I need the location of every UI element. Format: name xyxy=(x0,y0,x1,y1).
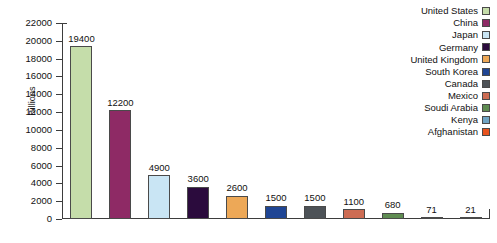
legend-color-swatch xyxy=(482,116,490,124)
bar[interactable] xyxy=(109,110,131,219)
legend-item-label: South Korea xyxy=(425,67,478,77)
legend-item-label: Germany xyxy=(439,43,478,53)
y-axis-tick xyxy=(56,219,62,220)
legend-item[interactable]: China xyxy=(366,17,490,29)
legend-item-label: China xyxy=(453,18,478,28)
bar[interactable] xyxy=(226,196,248,219)
legend-color-swatch xyxy=(482,128,490,136)
legend-item-label: Afghanistan xyxy=(428,127,478,137)
bar-value-label: 680 xyxy=(385,200,401,210)
legend-color-swatch xyxy=(482,104,490,112)
legend-color-swatch xyxy=(482,68,490,76)
bar-group[interactable]: 3600 xyxy=(187,23,209,219)
bar-value-label: 3600 xyxy=(188,174,209,184)
y-axis-tick-label: 2000 xyxy=(0,196,52,206)
legend-item[interactable]: Japan xyxy=(366,29,490,41)
legend-color-swatch xyxy=(482,55,490,63)
chart-legend: United StatesChinaJapanGermanyUnited Kin… xyxy=(366,5,490,138)
y-axis-tick-label: 16000 xyxy=(0,72,52,82)
legend-item[interactable]: Germany xyxy=(366,41,490,53)
y-axis-tick-label: 20000 xyxy=(0,36,52,46)
legend-color-swatch xyxy=(482,80,490,88)
legend-item-label: United States xyxy=(421,6,478,16)
bar-group[interactable]: 19400 xyxy=(70,23,92,219)
y-axis-tick-label: 4000 xyxy=(0,179,52,189)
legend-item[interactable]: Kenya xyxy=(366,114,490,126)
bar[interactable] xyxy=(70,46,92,219)
bar-value-label: 21 xyxy=(465,205,476,215)
legend-color-swatch xyxy=(482,92,490,100)
y-axis-tick-label: 10000 xyxy=(0,125,52,135)
legend-item[interactable]: Soudi Arabia xyxy=(366,102,490,114)
bar-group[interactable]: 1500 xyxy=(265,23,287,219)
bar-value-label: 1500 xyxy=(304,193,325,203)
y-axis-tick-label: 18000 xyxy=(0,54,52,64)
legend-item-label: Kenya xyxy=(451,115,478,125)
legend-item-label: Japan xyxy=(452,30,478,40)
bar-value-label: 71 xyxy=(426,205,437,215)
legend-item[interactable]: Mexico xyxy=(366,90,490,102)
bar-value-label: 2600 xyxy=(227,183,248,193)
y-axis-tick-label: 0 xyxy=(0,214,52,224)
bar-group[interactable]: 1500 xyxy=(304,23,326,219)
bar-value-label: 4900 xyxy=(149,163,170,173)
legend-item-label: United Kingdom xyxy=(410,55,478,65)
bar-chart: Billions 0200040006000800010000120001400… xyxy=(0,0,497,243)
legend-item[interactable]: Canada xyxy=(366,78,490,90)
legend-item-label: Canada xyxy=(445,79,478,89)
bar-group[interactable]: 1100 xyxy=(343,23,365,219)
y-axis-tick-label: 22000 xyxy=(0,18,52,28)
bar-value-label: 1500 xyxy=(265,193,286,203)
bar-value-label: 19400 xyxy=(68,34,94,44)
legend-item-label: Mexico xyxy=(448,91,478,101)
bar-value-label: 12200 xyxy=(107,98,133,108)
bar[interactable] xyxy=(421,217,443,219)
bar[interactable] xyxy=(382,213,404,219)
legend-item[interactable]: Afghanistan xyxy=(366,126,490,138)
y-axis-tick-label: 6000 xyxy=(0,161,52,171)
bar[interactable] xyxy=(148,175,170,219)
y-axis-tick-label: 8000 xyxy=(0,143,52,153)
y-axis-tick-label: 14000 xyxy=(0,90,52,100)
bar-group[interactable]: 12200 xyxy=(109,23,131,219)
y-axis-tick-label: 12000 xyxy=(0,107,52,117)
bar[interactable] xyxy=(187,187,209,219)
legend-color-swatch xyxy=(482,7,490,15)
legend-color-swatch xyxy=(482,31,490,39)
legend-color-swatch xyxy=(482,19,490,27)
legend-item-label: Soudi Arabia xyxy=(424,103,478,113)
bar[interactable] xyxy=(343,209,365,219)
bar-value-label: 1100 xyxy=(344,197,364,207)
bar[interactable] xyxy=(304,206,326,219)
legend-item[interactable]: South Korea xyxy=(366,65,490,77)
bar-group[interactable]: 4900 xyxy=(148,23,170,219)
legend-item[interactable]: United Kingdom xyxy=(366,53,490,65)
bar[interactable] xyxy=(265,206,287,219)
legend-item[interactable]: United States xyxy=(366,5,490,17)
legend-color-swatch xyxy=(482,43,490,51)
bar[interactable] xyxy=(460,217,482,219)
bar-group[interactable]: 2600 xyxy=(226,23,248,219)
